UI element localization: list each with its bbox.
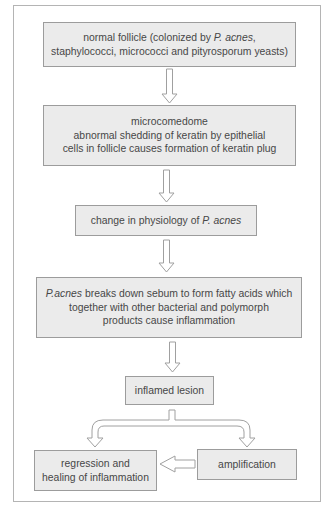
node-text-line: amplification — [218, 458, 276, 472]
node-text-line: abnormal shedding of keratin by epitheli… — [63, 129, 277, 143]
node-text-line: regression and — [42, 457, 149, 471]
down-arrow-icon — [159, 240, 174, 272]
node-text-line: staphylococci, micrococci and pityrospor… — [51, 45, 288, 59]
node-inflamed-lesion: inflamed lesion — [125, 376, 214, 405]
down-arrow-icon — [159, 170, 174, 202]
flow-arrows — [0, 0, 331, 510]
node-physiology-change: change in physiology of P. acnes — [75, 205, 257, 236]
node-text-line: P.acnes breaks down sebum to form fatty … — [46, 287, 292, 301]
node-normal-follicle: normal follicle (colonized by P. acnes, … — [43, 22, 296, 67]
node-text-line: cells in follicle causes formation of ke… — [63, 142, 277, 156]
node-text-line: products cause inflammation — [46, 314, 292, 328]
node-text-line: healing of inflammation — [42, 471, 149, 485]
node-text-line: inflamed lesion — [135, 384, 204, 398]
down-arrow-icon — [162, 69, 177, 103]
down-arrow-icon — [165, 342, 180, 372]
node-text-line: together with other bacterial and polymo… — [46, 301, 292, 315]
node-sebum-breakdown: P.acnes breaks down sebum to form fatty … — [36, 277, 302, 338]
node-text-line: change in physiology of P. acnes — [91, 214, 242, 228]
branch-arrow-icon — [87, 410, 255, 447]
node-regression: regression and healing of inflammation — [34, 450, 157, 491]
node-text-line: microcomedome — [63, 115, 277, 129]
left-arrow-icon — [160, 456, 195, 472]
node-amplification: amplification — [197, 449, 297, 480]
node-microcomedome: microcomedome abnormal shedding of kerat… — [43, 105, 296, 166]
node-text-line: normal follicle (colonized by P. acnes, — [51, 31, 288, 45]
